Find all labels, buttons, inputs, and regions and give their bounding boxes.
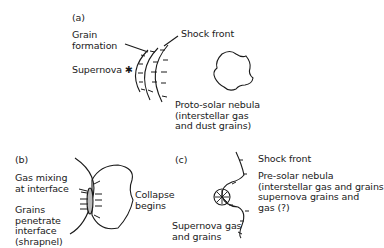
shock-arc-left (136, 50, 149, 92)
mixing-interface-b (87, 188, 93, 214)
nebula-label-a: Proto-solar nebula (interstellar gas and… (175, 100, 260, 132)
grain-formation-pointer (125, 44, 148, 52)
collapse-label: Collapse begins (135, 190, 175, 211)
panel-a-tag: (a) (72, 13, 85, 24)
collapsing-cloud-b (92, 165, 133, 229)
panel-b-tag: (b) (15, 155, 28, 166)
shock-front-label-c: Shock front (258, 154, 311, 165)
pre-solar-label: Pre-solar nebula (interstellar gas and g… (258, 171, 384, 213)
proto-solar-nebula-shape (214, 52, 253, 91)
shock-front-label-a: Shock front (181, 29, 234, 40)
grains-label: Grains penetrate interface (shrapnel) (15, 205, 63, 247)
gas-mixing-label: Gas mixing at interface (15, 173, 69, 194)
supernova-label: Supernova ✱ (72, 65, 133, 76)
shock-arc-outer (155, 45, 168, 102)
panel-c-tag: (c) (175, 155, 187, 166)
grain-formation-label: Grain formation (72, 30, 117, 51)
shock-arc-inner (145, 48, 158, 100)
shock-front-pointer (164, 36, 178, 46)
supernova-gas-label: Supernova gas and grains (172, 221, 241, 242)
